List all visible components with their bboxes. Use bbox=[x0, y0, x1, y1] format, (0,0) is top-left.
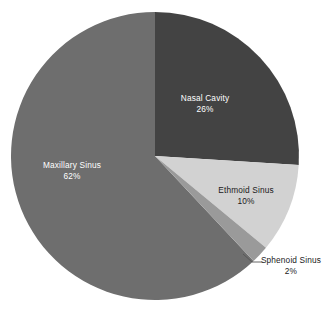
pie-label-maxillary-sinus: Maxillary Sinus 62% bbox=[20, 160, 124, 181]
pie-label-ethmoid-sinus-value: 10% bbox=[196, 196, 296, 207]
pie-chart: Nasal Cavity 26% Maxillary Sinus 62% Eth… bbox=[0, 0, 335, 312]
pie-label-ethmoid-sinus-name: Ethmoid Sinus bbox=[196, 185, 296, 196]
pie-label-maxillary-sinus-value: 62% bbox=[20, 171, 124, 182]
pie-label-nasal-cavity-name: Nasal Cavity bbox=[157, 93, 253, 104]
pie-label-ethmoid-sinus: Ethmoid Sinus 10% bbox=[196, 185, 296, 206]
pie-slice-nasal-cavity[interactable] bbox=[155, 12, 299, 165]
pie-label-sphenoid-sinus-name: Sphenoid Sinus bbox=[249, 255, 333, 266]
pie-label-sphenoid-sinus: Sphenoid Sinus 2% bbox=[249, 255, 333, 276]
pie-label-maxillary-sinus-name: Maxillary Sinus bbox=[20, 160, 124, 171]
pie-label-sphenoid-sinus-value: 2% bbox=[249, 266, 333, 277]
pie-label-nasal-cavity-value: 26% bbox=[157, 104, 253, 115]
pie-label-nasal-cavity: Nasal Cavity 26% bbox=[157, 93, 253, 114]
